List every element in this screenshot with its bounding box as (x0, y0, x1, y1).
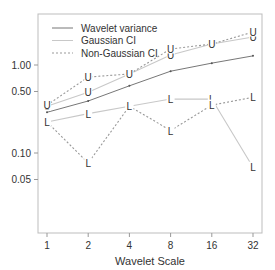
data-point (128, 85, 130, 87)
legend-label: Non-Gaussian CI (81, 48, 158, 59)
data-point-u: U (126, 69, 133, 80)
data-point (211, 62, 213, 64)
data-point (252, 55, 254, 57)
series-gaussian-ci-upper: UUUUUU (43, 32, 257, 113)
x-tick-label: 2 (85, 240, 91, 251)
y-tick-label: 0.10 (12, 148, 32, 159)
data-point-u: U (249, 27, 256, 38)
series-line (47, 99, 253, 167)
y-axis: 0.050.100.501.00 (12, 60, 38, 185)
data-point-l: L (250, 162, 256, 173)
series-non-gaussian-ci-upper: UUUUUU (43, 27, 257, 112)
x-tick-label: 16 (206, 240, 218, 251)
data-point-l: L (85, 109, 91, 120)
x-axis-label: Wavelet Scale (115, 255, 185, 267)
data-point-u: U (43, 100, 50, 111)
data-point-l: L (250, 92, 256, 103)
data-point-l: L (168, 94, 174, 105)
chart-canvas: 0.050.100.501.00 12481632 UUUUUULLLLLLUU… (0, 0, 275, 270)
x-tick-label: 4 (127, 240, 133, 251)
series-line (47, 97, 253, 163)
series-gaussian-ci-lower: LLLLLL (43, 94, 257, 174)
data-point-l: L (85, 158, 91, 169)
data-point-u: U (85, 87, 92, 98)
data-point-l: L (44, 117, 50, 128)
data-point-l: L (209, 100, 215, 111)
data-point-u: U (85, 72, 92, 83)
legend-label: Wavelet variance (81, 23, 158, 34)
data-point (170, 70, 172, 72)
data-point (87, 100, 89, 102)
legend-label: Gaussian CI (81, 35, 136, 46)
data-point-l: L (127, 101, 133, 112)
wavelet-variance-chart: 0.050.100.501.00 12481632 UUUUUULLLLLLUU… (0, 0, 275, 270)
data-point-l: L (168, 126, 174, 137)
y-tick-label: 1.00 (12, 60, 32, 71)
x-tick-label: 32 (247, 240, 259, 251)
legend: Wavelet varianceGaussian CINon-Gaussian … (52, 23, 158, 59)
series-non-gaussian-ci-lower: LLLLLL (43, 92, 257, 169)
x-axis: 12481632 (44, 233, 259, 251)
x-tick-label: 1 (44, 240, 50, 251)
series-line (47, 32, 253, 105)
data-point-u: U (167, 44, 174, 55)
y-tick-label: 0.50 (12, 86, 32, 97)
data-point-u: U (208, 39, 215, 50)
y-tick-label: 0.05 (12, 174, 32, 185)
x-tick-label: 8 (168, 240, 174, 251)
